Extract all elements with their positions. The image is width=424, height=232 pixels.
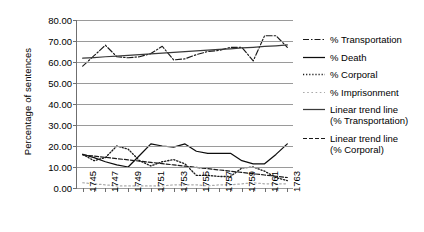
y-axis-tick: [73, 62, 77, 63]
y-tick-label: 60.00: [48, 57, 72, 68]
legend-swatch-icon: [303, 133, 325, 144]
legend-item[interactable]: Linear trend line (% Transportation): [303, 104, 424, 126]
y-tick-label: 50.00: [48, 78, 72, 89]
x-tick-label: 1749: [132, 171, 143, 192]
legend-item[interactable]: % Death: [303, 52, 424, 63]
legend-label: % Death: [330, 52, 366, 63]
gridline: [77, 104, 293, 105]
gridline: [77, 41, 293, 42]
x-tick-label: 1745: [87, 171, 98, 192]
y-axis-tick: [73, 125, 77, 126]
y-tick-label: 30.00: [48, 120, 72, 131]
legend-swatch-icon: [303, 69, 325, 80]
legend-swatch-icon: [303, 87, 325, 98]
gridline: [77, 83, 293, 84]
y-tick-label: 80.00: [48, 15, 72, 26]
legend-label: % Corporal: [330, 69, 378, 80]
y-tick-label: 0.00: [54, 183, 73, 194]
y-tick-label: 40.00: [48, 99, 72, 110]
y-tick-label: 20.00: [48, 141, 72, 152]
chart-legend: % Transportation% Death% Corporal% Impri…: [303, 34, 424, 161]
legend-swatch-icon: [303, 104, 325, 115]
series-line: [83, 144, 288, 167]
y-tick-label: 10.00: [48, 162, 72, 173]
x-tick-label: 1761: [269, 171, 280, 192]
legend-label: Linear trend line (% Transportation): [330, 104, 408, 126]
legend-swatch-icon: [303, 52, 325, 63]
y-axis-tick: [73, 146, 77, 147]
plot-area: [77, 20, 293, 188]
y-axis-tick: [73, 83, 77, 84]
legend-label: % Transportation: [330, 34, 402, 45]
chart-container: Percentage of sentences 0.0010.0020.0030…: [0, 0, 424, 232]
y-axis-tick-labels: 0.0010.0020.0030.0040.0050.0060.0070.008…: [14, 0, 72, 232]
x-axis-tick-labels: 1745174717491751175317551757175917611763: [77, 192, 293, 232]
y-axis-tick: [73, 167, 77, 168]
x-tick-label: 1763: [291, 171, 302, 192]
gridline: [77, 125, 293, 126]
x-tick-label: 1751: [155, 171, 166, 192]
x-tick-label: 1757: [223, 171, 234, 192]
legend-label: % Imprisonment: [330, 87, 399, 98]
gridline: [77, 167, 293, 168]
gridline: [77, 146, 293, 147]
legend-swatch-icon: [303, 34, 325, 45]
y-tick-label: 70.00: [48, 36, 72, 47]
y-axis-tick: [73, 41, 77, 42]
gridline: [77, 20, 293, 21]
legend-item[interactable]: % Transportation: [303, 34, 424, 45]
y-axis-tick: [73, 20, 77, 21]
legend-item[interactable]: % Imprisonment: [303, 87, 424, 98]
x-tick-label: 1759: [246, 171, 257, 192]
y-axis-tick: [73, 188, 77, 189]
x-tick-label: 1747: [109, 171, 120, 192]
x-tick-label: 1755: [200, 171, 211, 192]
legend-item[interactable]: Linear trend line (% Corporal): [303, 133, 424, 155]
legend-label: Linear trend line (% Corporal): [330, 133, 398, 155]
x-tick-label: 1753: [178, 171, 189, 192]
y-axis-tick: [73, 104, 77, 105]
series-line: [83, 45, 288, 58]
gridline: [77, 62, 293, 63]
legend-item[interactable]: % Corporal: [303, 69, 424, 80]
